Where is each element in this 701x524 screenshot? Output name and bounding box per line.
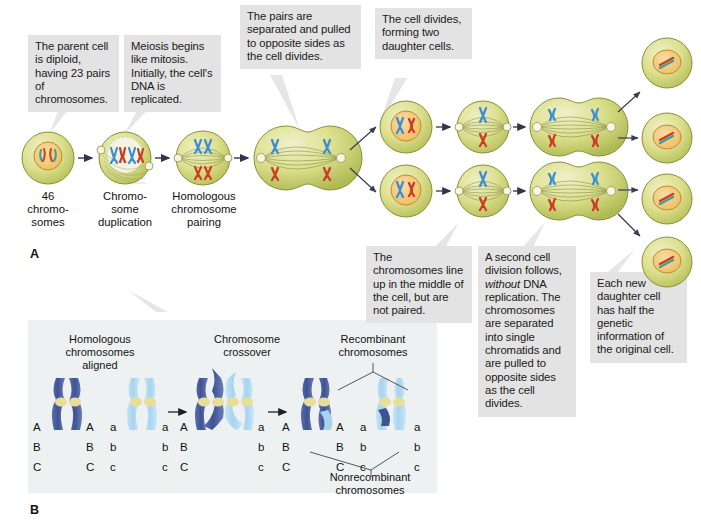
heading-recombinant-line-1: Recombinant [318,333,428,346]
callout-pairs-separated: The pairs are separated and pulled to op… [240,5,361,69]
caption-stage-1-line-1: 46 [18,190,78,203]
caption-stage-3-line-1: Homologous [166,190,242,203]
caption-stage-1: 46 chromo- somes [18,190,78,230]
allele-g1-lright-b: b [162,441,168,453]
callout-cell-divides: The cell divides, forming two daughter c… [375,8,472,59]
callout-second-division: A second cell division follows, without … [478,246,576,417]
allele-g3-lleft-a: a [360,421,366,433]
allele-g3-lleft-c: c [360,461,366,473]
allele-g1-lright-c: c [162,461,168,473]
caption-stage-3-line-2: chromosome [166,203,242,216]
allele-g3-lright-b: b [414,441,420,453]
callout-chromosomes-line-up: The chromosomes line up in the middle of… [366,246,472,323]
cell-stage-4-anaphase-1 [254,126,362,190]
allele-g2-left-B: B [180,441,188,453]
heading-homologous-line-3: aligned [44,359,156,372]
caption-stage-2: Chromo- some duplication [90,190,160,230]
cell-final-1 [642,38,692,88]
allele-g3-lright-c: c [414,461,420,473]
cell-anaphase-2-lower [530,162,628,220]
second-division-text-2: DNA replication. The chromosomes are sep… [485,278,561,410]
allele-g1-lleft-b: b [110,441,116,453]
heading-recombinant-line-2: chromosomes [318,346,428,359]
allele-g3-left-B: B [282,441,290,453]
tail-pairs-separated [270,75,300,130]
heading-homologous-line-2: chromosomes [44,346,156,359]
allele-g2-left-A: A [180,421,188,433]
caption-stage-2-line-3: duplication [90,216,160,229]
heading-nonrecombinant-line-2: chromosomes [306,484,434,497]
arrow-split-lower [350,168,376,192]
heading-homologous-aligned: Homologous chromosomes aligned [44,333,156,372]
caption-stage-2-line-1: Chromo- [90,190,160,203]
cell-anaphase-2-upper [530,98,628,156]
second-division-italic: without [485,278,520,290]
allele-g1-left-C: C [33,461,41,473]
allele-g3-left-A: A [282,421,290,433]
allele-g1-left-A: A [33,421,41,433]
allele-g1-right-B: B [86,441,94,453]
cell-stage-2-duplication [97,132,153,184]
tail-panel-b-top [128,290,168,312]
allele-g3-lleft-b: b [360,441,366,453]
heading-chromosome-crossover: Chromosome crossover [192,333,302,359]
allele-g2-right-a: a [258,421,264,433]
heading-nonrecombinant: Nonrecombinant chromosomes [306,471,434,497]
cell-stage-1-parent [22,132,74,184]
heading-crossover-line-1: Chromosome [192,333,302,346]
cell-final-2 [642,113,692,163]
panel-b-letter: B [30,503,39,517]
caption-stage-2-line-2: some [90,203,160,216]
allele-g1-lleft-a: a [110,421,116,433]
allele-g3-lright-a: a [414,421,420,433]
cell-daughter-1-lower [380,165,432,217]
allele-g3-right-B: B [336,441,344,453]
allele-g2-left-C: C [180,461,188,473]
allele-g1-lleft-c: c [110,461,116,473]
allele-g3-right-C: C [336,461,344,473]
tail-cell-divides [379,78,407,125]
meiosis-figure: The parent cell is diploid, having 23 pa… [0,0,701,524]
cell-final-3 [642,174,692,224]
cell-metaphase-2-upper [455,101,511,153]
allele-g1-right-A: A [86,421,94,433]
callout-each-daughter: Each new daughter cell has half the gene… [590,272,687,363]
allele-g1-lright-a: a [162,421,168,433]
allele-g3-right-A: A [336,421,344,433]
arrow-split-upper [350,127,376,150]
cell-stage-3-pairing [174,131,232,185]
allele-g1-left-B: B [33,441,41,453]
arrow-final-4 [618,214,640,236]
allele-g2-right-b: b [258,441,264,453]
allele-g3-left-C: C [282,461,290,473]
cell-metaphase-2-lower [455,165,511,217]
caption-stage-3-line-3: pairing [166,216,242,229]
heading-recombinant: Recombinant chromosomes [318,333,428,359]
allele-g1-right-C: C [86,461,94,473]
caption-stage-3: Homologous chromosome pairing [166,190,242,230]
panel-a-letter: A [30,247,39,261]
heading-crossover-line-2: crossover [192,346,302,359]
callout-meiosis-begins: Meiosis begins like mitosis. Initially, … [124,35,221,112]
allele-g2-right-c: c [258,461,264,473]
heading-homologous-line-1: Homologous [44,333,156,346]
caption-stage-1-line-3: somes [18,216,78,229]
second-division-text-1: A second cell division follows, [485,251,562,276]
arrow-final-1 [618,92,640,112]
caption-stage-1-line-2: chromo- [18,203,78,216]
cell-daughter-1-upper [380,101,432,153]
callout-parent-cell: The parent cell is diploid, having 23 pa… [28,35,119,112]
